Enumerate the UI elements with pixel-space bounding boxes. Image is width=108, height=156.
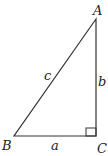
vertex-label-c: C	[97, 141, 107, 156]
vertex-label-a: A	[92, 3, 102, 18]
triangle-diagram: A B C a b c	[0, 0, 108, 156]
side-label-a: a	[51, 138, 59, 153]
right-angle-marker	[86, 128, 96, 136]
side-label-b: b	[98, 74, 106, 89]
triangle-abc	[14, 19, 96, 136]
side-label-c: c	[44, 68, 52, 83]
vertex-label-b: B	[1, 138, 12, 153]
